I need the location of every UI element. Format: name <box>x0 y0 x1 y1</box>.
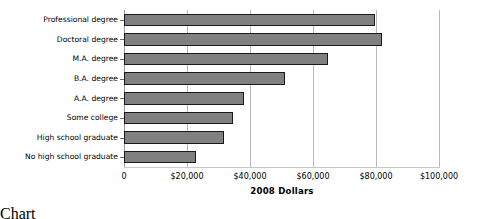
x-axis-tick-label: $80,000 <box>359 172 392 181</box>
bar-ma-degree <box>124 53 328 66</box>
plot-area <box>124 10 439 167</box>
y-axis-label: B.A. degree <box>0 74 118 83</box>
x-gridline-100000 <box>439 10 440 167</box>
bar-high-school-graduate <box>124 131 224 144</box>
y-axis-label: Some college <box>0 113 118 122</box>
x-axis-tick-label: $40,000 <box>233 172 266 181</box>
y-axis-label: High school graduate <box>0 133 118 142</box>
x-axis-tick-label: $60,000 <box>296 172 329 181</box>
x-axis-tick-label: 0 <box>121 172 126 181</box>
bar-doctoral-degree <box>124 33 382 46</box>
y-axis-label: M.A. degree <box>0 54 118 63</box>
x-axis-baseline <box>124 167 440 168</box>
bar-professional-degree <box>124 14 375 27</box>
bar-ba-degree <box>124 72 285 85</box>
x-axis-tick-label: $100,000 <box>420 172 458 181</box>
bar-series <box>124 10 439 167</box>
bar-aa-degree <box>124 92 244 105</box>
bar-some-college <box>124 112 233 125</box>
x-axis-tick-label: $20,000 <box>170 172 203 181</box>
y-axis-label: No high school graduate <box>0 152 118 161</box>
y-axis-category-labels: Professional degree Doctoral degree M.A.… <box>0 10 118 167</box>
bar-chart: Professional degree Doctoral degree M.A.… <box>0 0 480 205</box>
y-axis-label: A.A. degree <box>0 94 118 103</box>
x-axis-title: 2008 Dollars <box>124 186 440 196</box>
x-axis-tick-labels: 0 $20,000 $40,000 $60,000 $80,000 $100,0… <box>0 172 480 186</box>
y-axis-label: Professional degree <box>0 15 118 24</box>
bar-no-high-school-graduate <box>124 151 196 164</box>
y-axis-label: Doctoral degree <box>0 35 118 44</box>
